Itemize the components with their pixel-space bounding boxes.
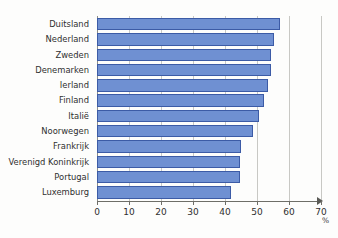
x-tick-70 bbox=[321, 201, 322, 205]
x-tick-50 bbox=[257, 201, 258, 205]
bar-row bbox=[97, 63, 322, 78]
category-label-nederland: Nederland bbox=[0, 32, 93, 47]
bar-row bbox=[97, 17, 322, 32]
bar-row bbox=[97, 170, 322, 185]
x-tick-30 bbox=[193, 201, 194, 205]
x-tick-label-50: 50 bbox=[251, 207, 262, 217]
bar-portugal bbox=[97, 171, 240, 183]
x-tick-60 bbox=[289, 201, 290, 205]
category-label-denemarken: Denemarken bbox=[0, 63, 93, 78]
x-tick-label-60: 60 bbox=[283, 207, 294, 217]
bar-row bbox=[97, 93, 322, 108]
bar-row bbox=[97, 109, 322, 124]
x-tick-label-10: 10 bbox=[123, 207, 134, 217]
bar-duitsland bbox=[97, 18, 280, 30]
bar-row bbox=[97, 32, 322, 47]
category-label-zweden: Zweden bbox=[0, 48, 93, 63]
bar-noorwegen bbox=[97, 125, 253, 137]
bar-zweden bbox=[97, 49, 271, 61]
bar-italie bbox=[97, 110, 259, 122]
category-label-luxemburg: Luxemburg bbox=[0, 185, 93, 200]
bar-denemarken bbox=[97, 64, 271, 76]
bar-row bbox=[97, 185, 322, 200]
category-label-duitsland: Duitsland bbox=[0, 17, 93, 32]
category-label-noorwegen: Noorwegen bbox=[0, 124, 93, 139]
bar-frankrijk bbox=[97, 140, 241, 152]
bar-row bbox=[97, 155, 322, 170]
bar-series bbox=[97, 17, 322, 201]
bar-row bbox=[97, 48, 322, 63]
bar-nederland bbox=[97, 33, 274, 45]
x-axis-unit-label: % bbox=[322, 216, 329, 225]
bar-verenigd-koninkrijk bbox=[97, 156, 240, 168]
x-tick-label-30: 30 bbox=[187, 207, 198, 217]
x-tick-20 bbox=[161, 201, 162, 205]
x-tick-label-0: 0 bbox=[94, 207, 100, 217]
x-tick-label-20: 20 bbox=[155, 207, 166, 217]
category-axis-labels: Duitsland Nederland Zweden Denemarken Ie… bbox=[0, 17, 93, 201]
bar-chart: Duitsland Nederland Zweden Denemarken Ie… bbox=[0, 0, 338, 238]
bar-luxemburg bbox=[97, 186, 231, 198]
x-axis-line bbox=[97, 201, 319, 202]
category-label-italie: Italië bbox=[0, 109, 93, 124]
x-axis-arrow-icon bbox=[317, 197, 323, 205]
x-tick-0 bbox=[97, 201, 98, 205]
category-label-ierland: Ierland bbox=[0, 78, 93, 93]
category-label-frankrijk: Frankrijk bbox=[0, 139, 93, 154]
bar-row bbox=[97, 78, 322, 93]
x-tick-label-40: 40 bbox=[219, 207, 230, 217]
category-label-verenigd-koninkrijk: Verenigd Koninkrijk bbox=[0, 155, 93, 170]
x-tick-40 bbox=[225, 201, 226, 205]
x-tick-10 bbox=[129, 201, 130, 205]
bar-ierland bbox=[97, 79, 268, 91]
bar-row bbox=[97, 124, 322, 139]
bar-row bbox=[97, 139, 322, 154]
category-label-portugal: Portugal bbox=[0, 170, 93, 185]
category-label-finland: Finland bbox=[0, 93, 93, 108]
bar-finland bbox=[97, 94, 264, 106]
